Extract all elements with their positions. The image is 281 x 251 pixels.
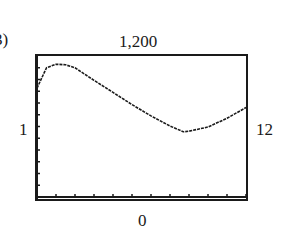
axis-ticks [37, 68, 246, 197]
function-curve [37, 64, 246, 132]
graph-window [0, 0, 281, 251]
graph-frame [36, 55, 247, 200]
